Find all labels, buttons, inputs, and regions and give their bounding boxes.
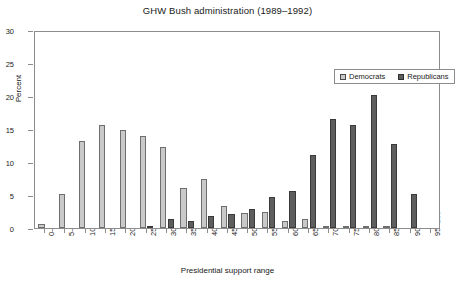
bar — [350, 125, 356, 228]
x-tick-mark — [166, 229, 167, 233]
bar — [411, 194, 417, 228]
bar — [38, 224, 44, 228]
bar — [289, 191, 295, 228]
bar — [168, 219, 174, 228]
bar — [221, 206, 227, 228]
bar — [343, 226, 349, 228]
bar — [147, 226, 153, 228]
chart-title: GHW Bush administration (1989–1992) — [0, 5, 455, 16]
bar — [188, 221, 194, 228]
y-tick-label: 10 — [0, 159, 14, 168]
y-tick-label: 25 — [0, 60, 14, 69]
x-tick-mark — [328, 229, 329, 233]
bar — [120, 130, 126, 228]
bar — [323, 226, 329, 228]
y-tick-label: 20 — [0, 93, 14, 102]
bar — [262, 212, 268, 229]
y-tick-mark — [28, 196, 33, 197]
bar — [180, 188, 186, 228]
bar — [371, 95, 377, 228]
bar — [99, 125, 105, 228]
x-tick-mark — [85, 229, 86, 233]
y-tick-label: 0 — [0, 225, 14, 234]
bar — [302, 219, 308, 228]
legend-item-rep: Republicans — [398, 72, 448, 81]
bar — [363, 226, 369, 228]
x-tick-mark — [125, 229, 126, 233]
bar — [310, 155, 316, 228]
x-tick-mark — [146, 229, 147, 233]
bar — [241, 213, 247, 228]
y-tick-mark — [28, 229, 33, 230]
x-tick-mark — [227, 229, 228, 233]
y-tick-mark — [28, 163, 33, 164]
x-tick-mark — [105, 229, 106, 233]
legend-label: Republicans — [407, 72, 448, 81]
bar — [330, 119, 336, 228]
chart-legend: DemocratsRepublicans — [334, 69, 455, 84]
x-tick-mark — [247, 229, 248, 233]
bar — [282, 221, 288, 228]
bar — [201, 179, 207, 228]
x-tick-mark — [410, 229, 411, 233]
bar — [249, 209, 255, 228]
y-tick-label: 30 — [0, 27, 14, 36]
legend-swatch-icon — [340, 74, 346, 80]
x-axis-title: Presidential support range — [0, 266, 455, 275]
y-axis-title: Percent — [14, 49, 23, 129]
bar — [383, 226, 389, 228]
y-tick-label: 15 — [0, 126, 14, 135]
y-tick-mark — [28, 64, 33, 65]
x-tick-mark — [44, 229, 45, 233]
x-tick-mark — [267, 229, 268, 233]
bar — [269, 197, 275, 228]
x-tick-mark — [389, 229, 390, 233]
bar — [79, 141, 85, 228]
x-tick-mark — [308, 229, 309, 233]
y-tick-mark — [28, 130, 33, 131]
legend-swatch-icon — [398, 74, 404, 80]
bar — [59, 194, 65, 228]
x-tick-mark — [288, 229, 289, 233]
plot-area — [35, 32, 439, 228]
x-tick-mark — [186, 229, 187, 233]
legend-label: Democrats — [349, 72, 385, 81]
x-tick-mark — [207, 229, 208, 233]
x-tick-mark — [349, 229, 350, 233]
legend-item-dem: Democrats — [340, 72, 385, 81]
y-tick-mark — [28, 97, 33, 98]
x-tick-mark — [369, 229, 370, 233]
y-tick-label: 5 — [0, 192, 14, 201]
x-tick-mark — [430, 229, 431, 233]
chart-container: GHW Bush administration (1989–1992) Perc… — [0, 0, 455, 284]
x-tick-mark — [64, 229, 65, 233]
bar — [391, 144, 397, 228]
bar — [208, 216, 214, 228]
bar — [160, 147, 166, 228]
bar — [140, 136, 146, 228]
y-tick-mark — [28, 31, 33, 32]
plot-frame: DemocratsRepublicans — [34, 31, 440, 229]
bar — [228, 214, 234, 228]
